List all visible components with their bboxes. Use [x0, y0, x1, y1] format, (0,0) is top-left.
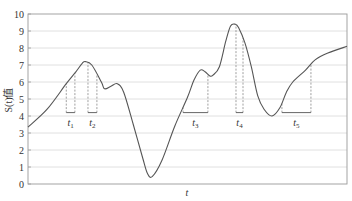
- interval-label: t1: [67, 117, 74, 130]
- y-tick-label: 5: [19, 94, 24, 105]
- gridlines: [28, 31, 347, 167]
- y-tick-label: 9: [19, 26, 24, 37]
- interval-label: t2: [89, 117, 96, 130]
- y-tick-label: 0: [19, 179, 24, 190]
- interval-label: t5: [293, 117, 300, 130]
- y-axis-label: S(t)值: [2, 88, 15, 113]
- interval-label: t4: [236, 117, 243, 130]
- s-t-curve: [28, 24, 347, 178]
- y-tick-label: 10: [14, 9, 24, 20]
- interval-t3: t3: [183, 74, 208, 129]
- interval-t2: t2: [88, 63, 97, 130]
- line-chart: 012345678910 t1t2t3t4t5 t S(t)值: [0, 0, 352, 201]
- y-tick-label: 6: [19, 77, 24, 88]
- y-tick-label: 8: [19, 43, 24, 54]
- interval-t5: t5: [282, 64, 311, 129]
- interval-markers: t1t2t3t4t5: [66, 25, 311, 130]
- y-tick-label: 4: [19, 111, 24, 122]
- y-tick-label: 1: [19, 162, 24, 173]
- x-axis-label: t: [186, 187, 189, 198]
- y-tick-label: 2: [19, 145, 24, 156]
- interval-label: t3: [192, 117, 199, 130]
- y-tick-label: 7: [19, 60, 24, 71]
- y-tick-label: 3: [19, 128, 24, 139]
- interval-t4: t4: [236, 25, 243, 130]
